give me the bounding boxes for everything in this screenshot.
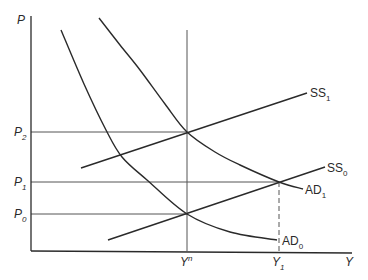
curve-ss0 xyxy=(108,167,325,240)
x-axis-label: Y xyxy=(345,255,354,269)
y-tick-label-p1: P1 xyxy=(14,175,26,192)
labels: PYP2P1P0YnY1AD0AD1SS1SS0 xyxy=(14,13,354,272)
y-tick-label-p2: P2 xyxy=(14,125,27,142)
curve-ad1 xyxy=(99,18,303,189)
x-tick-label-y1: Y1 xyxy=(272,255,284,272)
curve-label-ad0: AD0 xyxy=(282,234,304,251)
curve-label-ss0: SS0 xyxy=(327,161,348,178)
curve-label-ad1: AD1 xyxy=(305,183,327,200)
curve-ad0 xyxy=(61,30,277,240)
curve-ss1 xyxy=(81,93,307,168)
curve-label-ss1: SS1 xyxy=(310,86,331,103)
curves xyxy=(61,18,325,240)
ad-ss-diagram: PYP2P1P0YnY1AD0AD1SS1SS0 xyxy=(0,0,368,280)
y-tick-label-p0: P0 xyxy=(14,207,27,224)
x-axis xyxy=(31,251,352,253)
y-axis-label: P xyxy=(17,13,25,27)
x-tick-label-yn: Yn xyxy=(180,254,193,269)
guide-lines xyxy=(31,30,279,251)
